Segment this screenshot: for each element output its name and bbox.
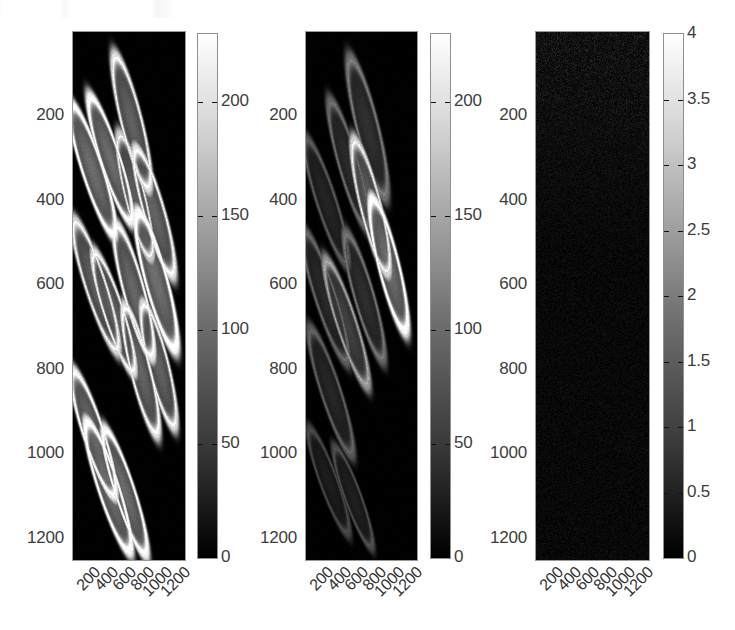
colorbar-tick-label-2-3: 150 — [454, 206, 482, 223]
colorbar-tick-label-3-3: 1.5 — [687, 352, 710, 369]
colorbar-tick-right-1-2 — [212, 330, 217, 331]
y-tick-label-3-600: 600 — [455, 275, 527, 292]
colorbar-tick-1-2 — [198, 330, 203, 331]
colorbar-tick-label-3-1: 0.5 — [687, 483, 710, 500]
colorbar-tick-label-3-7: 3.5 — [687, 90, 710, 107]
colorbar-gradient-1 — [198, 34, 217, 558]
colorbar-tick-label-3-8: 4 — [687, 24, 696, 41]
colorbar-tick-right-2-2 — [445, 330, 450, 331]
heatmap-image-1 — [73, 32, 185, 560]
colorbar-tick-label-1-2: 100 — [221, 320, 249, 337]
y-tick-label-2-1000: 1000 — [225, 444, 297, 461]
colorbar-tick-2-2 — [431, 330, 436, 331]
y-tick-label-3-800: 800 — [455, 360, 527, 377]
y-tick-label-2-1200: 1200 — [225, 529, 297, 546]
y-tick-label-3-1200: 1200 — [455, 529, 527, 546]
colorbar-tick-right-3-2 — [678, 427, 683, 428]
colorbar-1[interactable] — [197, 33, 218, 559]
heatmap-image-3 — [536, 32, 649, 560]
colorbar-tick-label-3-5: 2.5 — [687, 221, 710, 238]
image-axes-3[interactable] — [535, 31, 650, 561]
colorbar-tick-label-3-2: 1 — [687, 417, 696, 434]
colorbar-tick-3-5 — [664, 231, 669, 232]
colorbar-tick-right-3-4 — [678, 296, 683, 297]
colorbar-tick-label-3-4: 2 — [687, 286, 696, 303]
colorbar-tick-right-3-3 — [678, 362, 683, 363]
colorbar-tick-2-3 — [431, 216, 436, 217]
y-tick-label-1-1200: 1200 — [0, 529, 64, 546]
y-tick-label-1-400: 400 — [0, 191, 64, 208]
y-tick-label-1-200: 200 — [0, 106, 64, 123]
colorbar-tick-3-4 — [664, 296, 669, 297]
colorbar-tick-label-3-0: 0 — [687, 548, 696, 565]
colorbar-2[interactable] — [430, 33, 451, 559]
colorbar-gradient-2 — [431, 34, 450, 558]
colorbar-tick-2-1 — [431, 444, 436, 445]
y-tick-label-2-200: 200 — [225, 106, 297, 123]
colorbar-tick-right-3-1 — [678, 493, 683, 494]
colorbar-tick-3-6 — [664, 165, 669, 166]
colorbar-tick-3-7 — [664, 100, 669, 101]
colorbar-tick-right-2-1 — [445, 444, 450, 445]
scan-artifact — [0, 0, 735, 18]
colorbar-tick-right-3-7 — [678, 100, 683, 101]
colorbar-tick-3-1 — [664, 493, 669, 494]
y-tick-label-2-600: 600 — [225, 275, 297, 292]
colorbar-tick-right-2-3 — [445, 216, 450, 217]
colorbar-tick-3-2 — [664, 427, 669, 428]
colorbar-tick-right-1-1 — [212, 444, 217, 445]
colorbar-tick-right-2-4 — [445, 102, 450, 103]
colorbar-tick-2-4 — [431, 102, 436, 103]
colorbar-tick-1-3 — [198, 216, 203, 217]
colorbar-tick-label-2-0: 0 — [454, 548, 463, 565]
y-tick-label-1-1000: 1000 — [0, 444, 64, 461]
colorbar-tick-label-1-3: 150 — [221, 206, 249, 223]
colorbar-tick-right-1-4 — [212, 102, 217, 103]
colorbar-tick-right-3-6 — [678, 165, 683, 166]
colorbar-tick-1-1 — [198, 444, 203, 445]
image-axes-1[interactable] — [72, 31, 186, 561]
image-axes-2[interactable] — [305, 31, 418, 561]
y-tick-label-2-800: 800 — [225, 360, 297, 377]
y-tick-label-3-1000: 1000 — [455, 444, 527, 461]
colorbar-tick-label-1-0: 0 — [221, 548, 230, 565]
y-tick-label-2-400: 400 — [225, 191, 297, 208]
colorbar-tick-3-3 — [664, 362, 669, 363]
y-tick-label-1-600: 600 — [0, 275, 64, 292]
heatmap-image-2 — [306, 32, 417, 560]
colorbar-3[interactable] — [663, 33, 684, 559]
colorbar-tick-label-3-6: 3 — [687, 155, 696, 172]
y-tick-label-3-400: 400 — [455, 191, 527, 208]
colorbar-tick-right-3-5 — [678, 231, 683, 232]
colorbar-tick-right-1-3 — [212, 216, 217, 217]
y-tick-label-1-800: 800 — [0, 360, 64, 377]
colorbar-tick-label-2-2: 100 — [454, 320, 482, 337]
colorbar-tick-1-4 — [198, 102, 203, 103]
y-tick-label-3-200: 200 — [455, 106, 527, 123]
figure-root: 2004006008001000120020040060080010001200… — [0, 0, 735, 630]
